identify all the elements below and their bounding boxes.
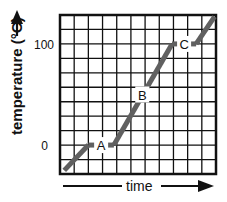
- curve-segment: [64, 145, 88, 170]
- y-tick-label-100: 100: [34, 38, 54, 52]
- curve-segment: [196, 17, 214, 44]
- y-tick-label-0: 0: [41, 139, 48, 153]
- annotation-label-b: B: [138, 88, 147, 103]
- x-axis-label: time: [126, 178, 153, 194]
- heating-curve-chart: ABC 0 100 temperature (°C) time: [0, 0, 227, 202]
- annotation-layer: ABC: [94, 36, 191, 153]
- annotation-label-a: A: [97, 138, 106, 153]
- annotation-label-c: C: [179, 37, 188, 52]
- x-axis-arrow-icon: [161, 180, 214, 192]
